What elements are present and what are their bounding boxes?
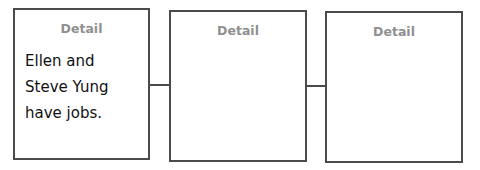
detail-label-3: Detail bbox=[327, 24, 461, 39]
detail-label-1: Detail bbox=[15, 21, 148, 36]
detail-text-1: Ellen and Steve Yung have jobs. bbox=[25, 48, 142, 126]
detail-box-2: Detail bbox=[169, 10, 307, 162]
detail-box-1: Detail Ellen and Steve Yung have jobs. bbox=[13, 8, 150, 160]
detail-label-2: Detail bbox=[171, 23, 305, 38]
detail-box-3: Detail bbox=[325, 11, 463, 163]
connector-1-2 bbox=[150, 84, 169, 86]
connector-2-3 bbox=[307, 85, 325, 87]
